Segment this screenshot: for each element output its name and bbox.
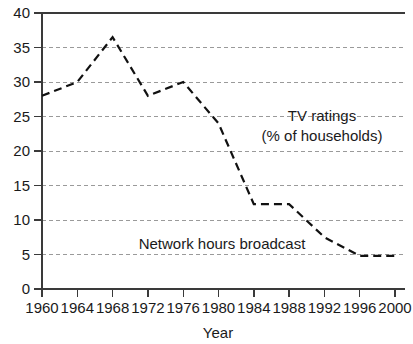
x-axis-title: Year bbox=[203, 324, 233, 341]
series-group bbox=[42, 37, 395, 256]
x-tick-label-1968: 1968 bbox=[96, 299, 129, 316]
y-tick-label-25: 25 bbox=[13, 108, 30, 125]
y-tick-label-0: 0 bbox=[22, 280, 30, 297]
x-tick-label-2000: 2000 bbox=[378, 299, 411, 316]
y-axis: 40 35 30 25 20 15 10 5 0 bbox=[13, 4, 42, 297]
x-axis: 1960 1964 1968 1972 1976 1980 1984 1988 … bbox=[25, 289, 411, 341]
tv-ratings-label-line2: (% of households) bbox=[262, 127, 383, 144]
x-tick-label-1976: 1976 bbox=[167, 299, 200, 316]
y-tick-label-5: 5 bbox=[22, 246, 30, 263]
annotation-network-hours: Network hours broadcast bbox=[139, 235, 307, 252]
tv-ratings-label-line1: TV ratings bbox=[288, 107, 356, 124]
y-tick-label-15: 15 bbox=[13, 177, 30, 194]
x-tick-label-1996: 1996 bbox=[343, 299, 376, 316]
x-tick-label-1988: 1988 bbox=[272, 299, 305, 316]
gridlines bbox=[42, 48, 405, 255]
x-tick-label-1964: 1964 bbox=[61, 299, 94, 316]
x-tick-label-1984: 1984 bbox=[237, 299, 270, 316]
y-tick-label-30: 30 bbox=[13, 73, 30, 90]
y-tick-label-20: 20 bbox=[13, 142, 30, 159]
chart-container: 40 35 30 25 20 15 10 5 0 1960 1964 196 bbox=[0, 0, 413, 344]
y-tick-label-40: 40 bbox=[13, 4, 30, 21]
series-network-hours-broadcast bbox=[42, 37, 395, 256]
x-tick-label-1960: 1960 bbox=[25, 299, 58, 316]
y-tick-label-35: 35 bbox=[13, 39, 30, 56]
x-tick-label-1992: 1992 bbox=[308, 299, 341, 316]
x-tick-label-1980: 1980 bbox=[202, 299, 235, 316]
annotation-tv-ratings: TV ratings (% of households) bbox=[262, 107, 383, 144]
network-hours-label: Network hours broadcast bbox=[139, 235, 307, 252]
x-tick-label-1972: 1972 bbox=[131, 299, 164, 316]
y-tick-label-10: 10 bbox=[13, 211, 30, 228]
line-chart: 40 35 30 25 20 15 10 5 0 1960 1964 196 bbox=[0, 0, 413, 344]
